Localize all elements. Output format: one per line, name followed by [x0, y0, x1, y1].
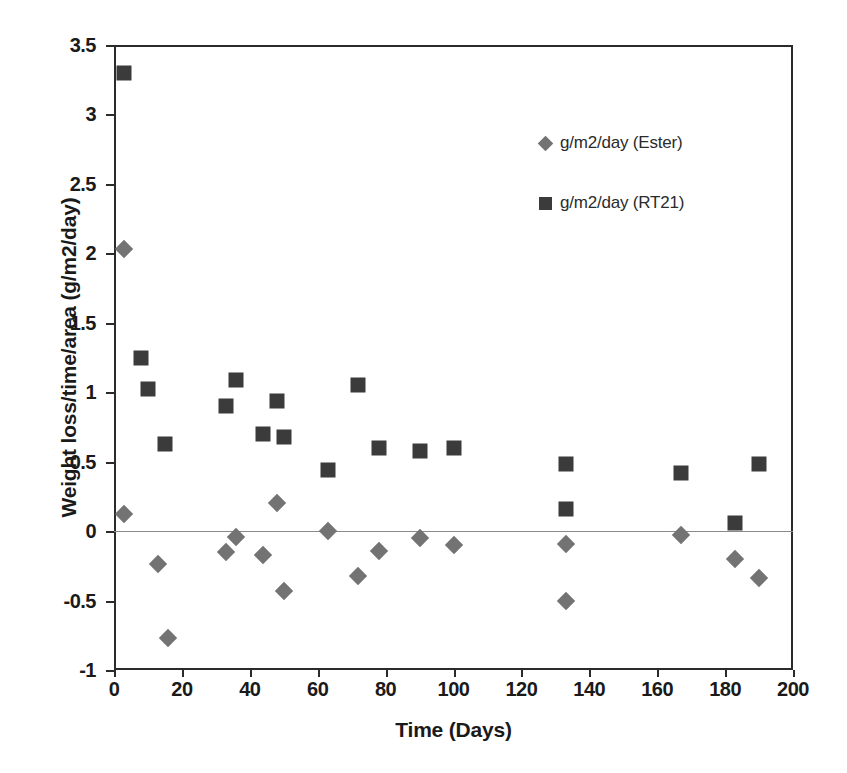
x-tick-mark	[454, 670, 456, 677]
legend-item-rt21: g/m2/day (RT21)	[530, 186, 770, 220]
x-tick-mark	[725, 670, 727, 677]
diamond-marker-icon	[530, 138, 560, 149]
x-tick-label: 60	[307, 678, 328, 701]
legend-label-rt21: g/m2/day (RT21)	[560, 193, 684, 213]
data-point-rt21	[140, 382, 155, 397]
data-point-rt21	[256, 426, 271, 441]
x-tick-mark	[182, 670, 184, 677]
chart-legend: g/m2/day (Ester) g/m2/day (RT21)	[530, 126, 770, 246]
y-tick-label: 0	[14, 520, 106, 543]
y-tick-label: 1	[14, 381, 106, 404]
y-tick-mark	[106, 392, 114, 394]
y-tick-mark	[106, 45, 114, 47]
x-tick-label: 40	[239, 678, 260, 701]
y-tick-mark	[106, 323, 114, 325]
y-tick-label: 0.5	[14, 450, 106, 473]
y-tick-mark	[106, 114, 114, 116]
y-tick-label: 2.5	[14, 172, 106, 195]
x-tick-mark	[589, 670, 591, 677]
y-tick-mark	[106, 253, 114, 255]
x-tick-mark	[657, 670, 659, 677]
legend-label-ester: g/m2/day (Ester)	[560, 133, 682, 153]
y-tick-label: 3	[14, 103, 106, 126]
x-tick-label: 120	[505, 678, 537, 701]
data-point-rt21	[219, 399, 234, 414]
data-point-rt21	[229, 372, 244, 387]
y-tick-mark	[106, 462, 114, 464]
y-tick-label: -1	[14, 659, 106, 682]
data-point-rt21	[412, 443, 427, 458]
data-point-rt21	[371, 440, 386, 455]
legend-item-ester: g/m2/day (Ester)	[530, 126, 770, 160]
y-tick-mark	[106, 531, 114, 533]
x-tick-label: 80	[375, 678, 396, 701]
x-axis-title: Time (Days)	[114, 718, 793, 742]
zero-reference-line	[114, 531, 793, 532]
data-point-rt21	[157, 436, 172, 451]
x-tick-mark	[521, 670, 523, 677]
x-tick-mark	[793, 670, 795, 677]
data-point-rt21	[269, 393, 284, 408]
y-tick-mark	[106, 670, 114, 672]
data-point-rt21	[320, 463, 335, 478]
y-tick-label: 1.5	[14, 311, 106, 334]
x-tick-label: 180	[709, 678, 741, 701]
y-tick-label: 2	[14, 242, 106, 265]
data-point-rt21	[351, 378, 366, 393]
data-point-rt21	[134, 350, 149, 365]
chart-figure: Weight loss/time/area (g/m2/day) -1-0.50…	[0, 0, 847, 773]
x-tick-label: 200	[777, 678, 809, 701]
data-point-rt21	[673, 465, 688, 480]
x-tick-mark	[250, 670, 252, 677]
x-tick-label: 20	[171, 678, 192, 701]
x-tick-label: 100	[438, 678, 470, 701]
y-tick-label: 3.5	[14, 34, 106, 57]
data-point-rt21	[558, 457, 573, 472]
x-tick-label: 160	[641, 678, 673, 701]
data-point-rt21	[446, 440, 461, 455]
data-point-rt21	[728, 515, 743, 530]
x-tick-label: 140	[573, 678, 605, 701]
x-tick-label: 0	[109, 678, 120, 701]
y-tick-mark	[106, 601, 114, 603]
y-tick-label: -0.5	[14, 589, 106, 612]
data-point-rt21	[117, 65, 132, 80]
y-axis-tick-labels: -1-0.500.511.522.533.5	[14, 0, 106, 773]
data-point-rt21	[752, 457, 767, 472]
x-tick-mark	[114, 670, 116, 677]
y-tick-mark	[106, 184, 114, 186]
data-point-rt21	[558, 501, 573, 516]
data-point-rt21	[276, 429, 291, 444]
x-tick-mark	[386, 670, 388, 677]
x-tick-mark	[318, 670, 320, 677]
square-marker-icon	[530, 197, 560, 210]
